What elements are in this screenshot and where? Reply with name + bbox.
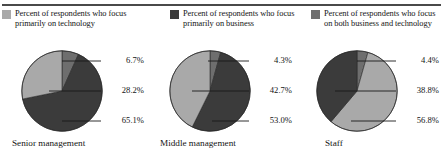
chart-caption-senior-management: Senior management [0,138,148,149]
legend-label-both: Percent of respondents who focus on both… [324,9,442,30]
pie-svg-middle-management [169,50,251,132]
legend-label-business: Percent of respondents who focus primari… [183,9,302,30]
charts-strip: 6.7% 28.2% 65.1% Senior management 4.3% [0,44,443,162]
pie-label-value: 4.4% [421,56,439,65]
pie-middle-management [169,50,251,132]
pie-label-value: 56.8% [417,116,439,125]
legend-label-technology: Percent of respondents who focus primari… [15,9,144,30]
legend-swatch-technology [2,10,11,19]
legend-swatch-both [311,10,320,19]
pie-svg-senior-management [21,50,103,132]
pie-label-value: 4.3% [274,56,292,65]
legend-swatch-business [170,10,179,19]
pie-chart-figure: Percent of respondents who focus primari… [0,0,443,162]
pie-label-value: 38.8% [417,86,439,95]
legend-item-both: Percent of respondents who focus on both… [311,9,442,30]
top-divider-rule [2,4,441,6]
pie-label-value: 6.7% [126,56,144,65]
pie-labels-staff: 4.4% 38.8% 56.8% [399,50,443,132]
pie-labels-senior-management: 6.7% 28.2% 65.1% [104,50,148,132]
chart-legend: Percent of respondents who focus primari… [0,9,443,43]
chart-caption-staff: Staff [295,138,443,149]
pie-staff [316,50,398,132]
pie-label-value: 42.7% [270,86,292,95]
chart-panel-senior-management: 6.7% 28.2% 65.1% Senior management [0,44,148,162]
pie-label-value: 65.1% [122,116,144,125]
pie-slices-senior-management [22,51,102,131]
legend-item-technology: Percent of respondents who focus primari… [2,9,144,30]
pie-slices-staff [317,51,397,131]
chart-panel-staff: 4.4% 38.8% 56.8% Staff [295,44,443,162]
pie-svg-staff [316,50,398,132]
pie-slices-middle-management [170,51,250,131]
pie-slice [22,51,62,99]
chart-panel-middle-management: 4.3% 42.7% 53.0% Middle management [148,44,296,162]
pie-label-value: 28.2% [122,86,144,95]
pie-labels-middle-management: 4.3% 42.7% 53.0% [252,50,296,132]
chart-caption-middle-management: Middle management [148,138,296,149]
legend-item-business: Percent of respondents who focus primari… [170,9,302,30]
pie-label-value: 53.0% [270,116,292,125]
pie-senior-management [21,50,103,132]
